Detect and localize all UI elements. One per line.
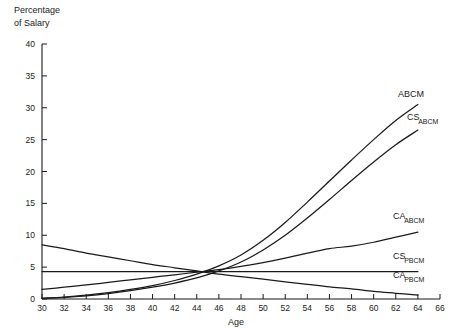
series-curve-abcm <box>42 105 418 299</box>
series-label-ca-abcm: CAABCM <box>393 211 425 224</box>
x-tick-label: 66 <box>435 303 445 313</box>
x-axis-title: Age <box>228 317 244 327</box>
x-tick-label: 42 <box>170 303 180 313</box>
y-tick-label: 0 <box>30 294 35 304</box>
axes-group <box>42 44 440 299</box>
series-label-subscript: PBCM <box>404 276 424 283</box>
y-axis-title-line1: Percentage <box>14 5 60 15</box>
y-tick-label: 20 <box>26 167 36 177</box>
x-tick-label: 32 <box>59 303 69 313</box>
y-tick-label: 30 <box>26 103 36 113</box>
x-tick-label: 52 <box>280 303 290 313</box>
series-label-subscript: ABCM <box>404 217 424 224</box>
x-tick-label: 60 <box>369 303 379 313</box>
x-tick-label: 50 <box>258 303 268 313</box>
x-tick-label: 38 <box>126 303 136 313</box>
x-tick-label: 34 <box>81 303 91 313</box>
y-tick-label: 25 <box>26 135 36 145</box>
series-label-cs-abcm: CSABCM <box>407 112 439 125</box>
series-label-subscript: PBCM <box>404 257 424 264</box>
x-tick-label: 40 <box>148 303 158 313</box>
x-tick-label: 44 <box>192 303 202 313</box>
series-label-subscript: ABCM <box>418 118 438 125</box>
salary-percentage-line-chart: Percentage of Salary 0510152025303540303… <box>0 0 472 331</box>
series-label-main: ABCM <box>398 89 424 99</box>
y-tick-label: 35 <box>26 71 36 81</box>
x-tick-label: 46 <box>214 303 224 313</box>
series-label-abcm: ABCM <box>398 89 424 99</box>
x-tick-label: 54 <box>303 303 313 313</box>
x-tick-label: 56 <box>325 303 335 313</box>
y-tick-label: 5 <box>30 262 35 272</box>
series-curve-ca-pbcm <box>42 245 418 295</box>
y-axis-title-line2: of Salary <box>14 18 50 28</box>
x-tick-label: 48 <box>236 303 246 313</box>
y-tick-label: 40 <box>26 39 36 49</box>
y-tick-label: 10 <box>26 230 36 240</box>
chart-container: Percentage of Salary 0510152025303540303… <box>0 0 472 331</box>
x-tick-label: 58 <box>347 303 357 313</box>
y-axis-title: Percentage of Salary <box>14 5 60 28</box>
series-label-cs-pbcm: CSPBCM <box>393 251 425 264</box>
x-tick-label: 62 <box>391 303 401 313</box>
y-tick-label: 15 <box>26 198 36 208</box>
x-tick-label: 64 <box>413 303 423 313</box>
series-curve-cs-abcm <box>42 130 418 298</box>
x-tick-label: 36 <box>104 303 114 313</box>
data-curves-group <box>42 105 418 299</box>
x-tick-label: 30 <box>37 303 47 313</box>
tick-marks-group <box>42 44 440 299</box>
